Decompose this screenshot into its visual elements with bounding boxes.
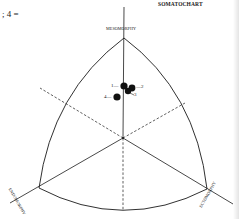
mesomorphy-label: MESOMORPHY <box>106 26 136 31</box>
center-point <box>122 137 124 139</box>
solid-axes <box>10 7 233 204</box>
point-4 <box>113 93 120 100</box>
dashed-right-axis <box>123 103 185 138</box>
point-4-label: 4— <box>104 94 112 99</box>
point-3-label: 3 <box>134 92 137 97</box>
right-arc <box>124 38 207 189</box>
page-edge-shadow <box>233 0 239 219</box>
somatochart-diagram <box>0 0 239 219</box>
point-2-label: —2 <box>136 84 144 89</box>
point-1-label: 1— <box>111 83 119 88</box>
dashed-axes <box>40 88 185 211</box>
ectomorphy-axis <box>123 138 233 204</box>
somatochart-figure: ; 4 = SOMATOCHART <box>0 0 239 219</box>
endomorphy-axis <box>10 138 123 203</box>
